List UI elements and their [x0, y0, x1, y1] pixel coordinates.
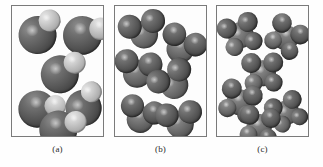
panel-wrap-c: (c) [216, 5, 309, 137]
panel-c [216, 5, 309, 137]
panel-caption-c: (c) [216, 144, 309, 154]
atom-lobe-2 [263, 52, 284, 73]
panel-caption-b: (b) [114, 144, 207, 154]
panel-b [114, 5, 207, 137]
panel-wrap-b: (b) [114, 5, 207, 137]
molecule [237, 104, 286, 137]
panel-wrap-a: (a) [11, 5, 104, 137]
molecular-figure: (a) (b) (c) [0, 0, 323, 167]
molecule [157, 100, 207, 137]
panel-caption-a: (a) [11, 144, 104, 154]
molecule [35, 107, 87, 137]
panel-a [11, 5, 104, 137]
